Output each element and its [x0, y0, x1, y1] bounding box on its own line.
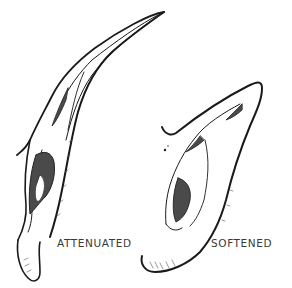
attenuated-label: ATTENUATED	[57, 238, 132, 249]
illustration-canvas: ATTENUATED SOFTENED	[0, 0, 292, 288]
softened-label: SOFTENED	[211, 238, 272, 249]
